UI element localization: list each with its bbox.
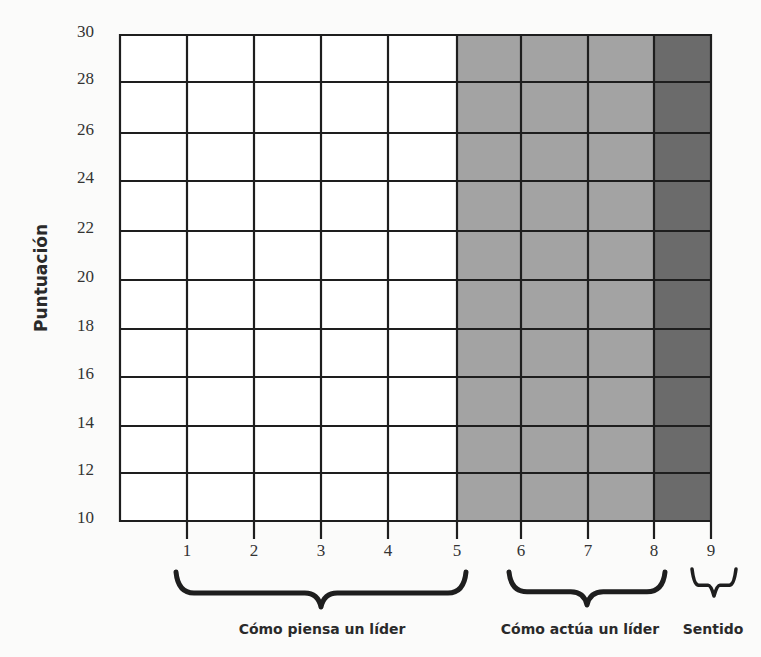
y-tick-label: 30 [77,22,94,41]
x-tick-label: 5 [453,541,462,560]
group-label-0: Cómo piensa un líder [239,621,406,637]
y-axis-title: Puntuación [31,224,51,332]
brace-icon-2 [692,569,736,596]
x-tick-label: 8 [650,541,659,560]
group-label-2: Sentido [683,621,744,637]
y-tick-label: 10 [77,508,94,527]
y-tick-label: 14 [77,413,95,432]
brace-icon-0 [176,572,466,607]
x-tick-label: 2 [250,541,259,560]
x-tick-label: 3 [317,541,326,560]
x-axis-tick-labels: 123456789 [183,541,716,560]
region-1 [457,35,654,521]
region-2 [654,35,711,521]
y-tick-label: 28 [77,69,94,88]
y-tick-label: 26 [77,120,94,139]
region-0 [120,35,457,521]
x-tick-label: 7 [584,541,593,560]
y-axis-tick-labels: 1012141618202224262830 [77,22,95,527]
y-tick-label: 12 [77,460,94,479]
group-label-1: Cómo actúa un líder [501,621,660,637]
brace-icon-1 [509,572,665,605]
group-labels: Cómo piensa un líderCómo actúa un líderS… [239,621,744,637]
score-grid-chart: 1012141618202224262830 123456789 Puntuac… [0,0,761,657]
x-tick-label: 6 [517,541,526,560]
y-tick-label: 20 [77,267,94,286]
y-tick-label: 18 [77,316,94,335]
shaded-regions [120,35,711,521]
group-braces [176,569,736,607]
x-tick-label: 1 [183,541,192,560]
y-tick-label: 24 [77,168,95,187]
y-tick-label: 16 [77,364,94,383]
y-tick-label: 22 [77,218,94,237]
x-tick-label: 4 [384,541,393,560]
x-tick-label: 9 [707,541,716,560]
